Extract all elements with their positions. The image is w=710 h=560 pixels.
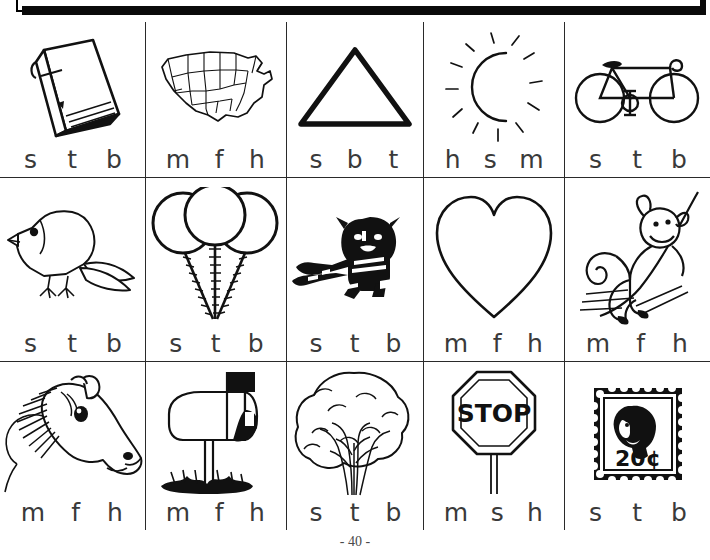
choice-letter[interactable]: s bbox=[307, 331, 325, 356]
tiger-icon bbox=[287, 178, 423, 331]
choice-row[interactable]: m f h bbox=[146, 500, 286, 530]
cropped-box-shadow-right bbox=[700, 0, 706, 15]
map-of-united-states-icon bbox=[146, 22, 286, 147]
choice-letter[interactable]: s bbox=[587, 147, 605, 172]
worksheet-cell-book[interactable]: s t b bbox=[0, 22, 146, 178]
worksheet-cell-map[interactable]: m f h bbox=[146, 22, 287, 178]
choice-letter[interactable]: t bbox=[63, 147, 81, 172]
choice-letter[interactable]: f bbox=[210, 147, 228, 172]
choice-letter[interactable]: h bbox=[526, 500, 544, 525]
worksheet-cell-tiger[interactable]: s t b bbox=[287, 178, 424, 362]
choice-letter[interactable]: f bbox=[488, 331, 506, 356]
worksheet-cell-monkey[interactable]: m f h bbox=[565, 178, 710, 362]
postage-stamp-icon: 20¢ bbox=[565, 362, 710, 500]
choice-row[interactable]: s t b bbox=[287, 331, 423, 361]
worksheet-cell-bicycle[interactable]: s t b bbox=[565, 22, 710, 178]
choice-letter[interactable]: s bbox=[488, 500, 506, 525]
horse-head-icon bbox=[0, 362, 145, 500]
choice-letter[interactable]: h bbox=[444, 147, 462, 172]
choice-letter[interactable]: t bbox=[346, 500, 364, 525]
choice-row[interactable]: m s h bbox=[424, 500, 564, 530]
choice-letter[interactable]: b bbox=[670, 500, 688, 525]
choice-letter[interactable]: b bbox=[670, 147, 688, 172]
choice-row[interactable]: s t b bbox=[0, 147, 145, 177]
worksheet-cell-horse[interactable]: m f h bbox=[0, 362, 146, 530]
choice-row[interactable]: m f h bbox=[0, 500, 145, 530]
choice-letter[interactable]: h bbox=[248, 147, 266, 172]
choice-letter[interactable]: s bbox=[307, 500, 325, 525]
choice-letter[interactable]: s bbox=[587, 500, 605, 525]
choice-letter[interactable]: b bbox=[385, 500, 403, 525]
book-icon bbox=[0, 22, 145, 147]
bird-icon bbox=[0, 178, 145, 331]
choice-letter[interactable]: f bbox=[632, 331, 650, 356]
choice-letter[interactable]: b bbox=[346, 147, 364, 172]
worksheet-cell-tree[interactable]: s t b bbox=[287, 362, 424, 530]
worksheet-cell-heart[interactable]: m f h bbox=[424, 178, 565, 362]
choice-row[interactable]: s t b bbox=[0, 331, 145, 361]
choice-letter[interactable]: b bbox=[105, 331, 123, 356]
worksheet-cell-stop-sign[interactable]: STOP m s h bbox=[424, 362, 565, 530]
choice-letter[interactable]: s bbox=[167, 331, 185, 356]
cropped-box-shadow bbox=[22, 6, 700, 15]
worksheet-cell-stamp[interactable]: 20¢ s t b bbox=[565, 362, 710, 530]
choice-row[interactable]: s t b bbox=[565, 500, 710, 530]
choice-letter[interactable]: m bbox=[519, 147, 544, 172]
choice-letter[interactable]: t bbox=[207, 331, 225, 356]
choice-letter[interactable]: h bbox=[106, 500, 124, 525]
choice-letter[interactable]: m bbox=[21, 500, 46, 525]
heart-icon bbox=[424, 178, 564, 331]
top-cropped-box-artifact bbox=[0, 0, 710, 22]
choice-letter[interactable]: s bbox=[482, 147, 500, 172]
worksheet-cell-balloons[interactable]: s t b bbox=[146, 178, 287, 362]
stamp-denomination-text: 20¢ bbox=[615, 446, 661, 471]
choice-letter[interactable]: m bbox=[166, 500, 191, 525]
choice-row[interactable]: s t b bbox=[565, 147, 710, 177]
choice-letter[interactable]: t bbox=[385, 147, 403, 172]
choice-letter[interactable]: b bbox=[247, 331, 265, 356]
choice-row[interactable]: h s m bbox=[424, 147, 564, 177]
choice-letter[interactable]: s bbox=[22, 147, 40, 172]
choice-letter[interactable]: f bbox=[67, 500, 85, 525]
worksheet-grid: s t b bbox=[0, 22, 710, 530]
choice-letter[interactable]: s bbox=[307, 147, 325, 172]
choice-row[interactable]: m f h bbox=[565, 331, 710, 361]
choice-letter[interactable]: s bbox=[22, 331, 40, 356]
bicycle-icon bbox=[565, 22, 710, 147]
choice-letter[interactable]: t bbox=[346, 331, 364, 356]
balloons-icon bbox=[146, 178, 286, 331]
choice-row[interactable]: s t b bbox=[146, 331, 286, 361]
choice-letter[interactable]: f bbox=[210, 500, 228, 525]
tree-icon bbox=[287, 362, 423, 500]
mailbox-icon bbox=[146, 362, 286, 500]
choice-row[interactable]: s t b bbox=[287, 500, 423, 530]
worksheet-cell-moon[interactable]: h s m bbox=[424, 22, 565, 178]
stop-sign-text: STOP bbox=[457, 399, 532, 428]
worksheet-cell-triangle[interactable]: s b t bbox=[287, 22, 424, 178]
choice-row[interactable]: s b t bbox=[287, 147, 423, 177]
moon-with-rays-icon bbox=[424, 22, 564, 147]
worksheet-cell-bird[interactable]: s t b bbox=[0, 178, 146, 362]
choice-letter[interactable]: m bbox=[586, 331, 611, 356]
choice-letter[interactable]: h bbox=[526, 331, 544, 356]
choice-letter[interactable]: b bbox=[385, 331, 403, 356]
triangle-icon bbox=[287, 22, 423, 147]
choice-letter[interactable]: m bbox=[166, 147, 191, 172]
choice-letter[interactable]: t bbox=[63, 331, 81, 356]
worksheet-cell-mailbox[interactable]: m f h bbox=[146, 362, 287, 530]
choice-letter[interactable]: b bbox=[105, 147, 123, 172]
choice-row[interactable]: m f h bbox=[424, 331, 564, 361]
monkey-icon bbox=[565, 178, 710, 331]
choice-letter[interactable]: h bbox=[248, 500, 266, 525]
choice-letter[interactable]: t bbox=[628, 500, 646, 525]
choice-letter[interactable]: m bbox=[444, 500, 469, 525]
page-number: - 40 - bbox=[0, 534, 710, 550]
stop-sign-icon: STOP bbox=[424, 362, 564, 500]
choice-letter[interactable]: t bbox=[628, 147, 646, 172]
choice-letter[interactable]: m bbox=[444, 331, 469, 356]
choice-row[interactable]: m f h bbox=[146, 147, 286, 177]
choice-letter[interactable]: h bbox=[671, 331, 689, 356]
